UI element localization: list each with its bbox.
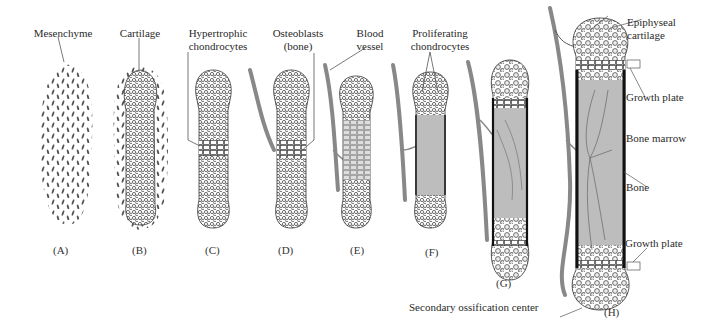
panel-c-hypertrophic (188, 52, 231, 228)
panel-d-osteoblasts (250, 53, 314, 228)
panel-e-blood-vessel (325, 48, 373, 228)
panel-label-h: (H) (604, 306, 619, 318)
label-proliferating-2: chondrocytes (400, 40, 480, 53)
panel-f-proliferating (393, 52, 448, 228)
label-secondary-ossification: Secondary ossification center (409, 301, 539, 314)
label-hypertrophic-2: chondrocytes (178, 40, 258, 53)
label-proliferating-1: Proliferating (400, 27, 480, 40)
panel-label-b: (B) (132, 244, 147, 256)
label-osteoblasts-2: (bone) (265, 40, 331, 53)
label-hypertrophic-1: Hypertrophic (178, 27, 258, 40)
label-blood: Blood (345, 27, 395, 40)
panel-label-e: (E) (350, 244, 364, 256)
label-growth-plate-top: Growth plate (626, 91, 684, 104)
label-cartilage: Cartilage (112, 27, 168, 40)
bone-development-diagram: Mesenchyme Cartilage Hypertrophic chondr… (0, 0, 715, 333)
label-epiphyseal-1: Epiphyseal (627, 16, 676, 29)
label-bone-marrow: Bone marrow (626, 132, 686, 145)
panel-a-mesenchyme (40, 37, 93, 225)
panel-b-cartilage (114, 38, 168, 230)
panel-label-d: (D) (278, 244, 293, 256)
panel-label-c: (C) (205, 244, 220, 256)
label-mesenchyme: Mesenchyme (28, 27, 98, 40)
panel-label-f: (F) (425, 246, 438, 258)
label-epiphyseal-2: cartilage (627, 29, 665, 42)
label-vessel: vessel (345, 40, 395, 53)
panel-g-vascularized (468, 60, 529, 280)
label-osteoblasts-1: Osteoblasts (265, 27, 331, 40)
panel-h-mature (550, 8, 647, 317)
panel-label-a: (A) (53, 244, 68, 256)
panel-label-g: (G) (496, 277, 511, 289)
label-bone: Bone (626, 181, 649, 194)
label-growth-plate-bottom: Growth plate (625, 237, 683, 250)
